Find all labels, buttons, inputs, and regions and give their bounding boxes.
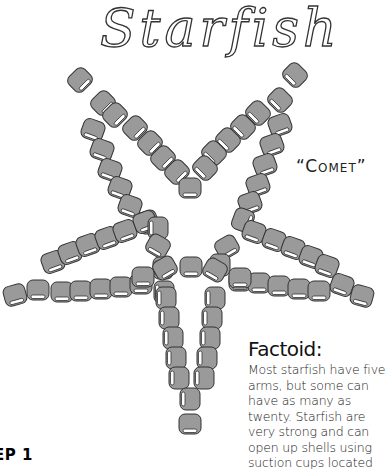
- bead: [205, 287, 225, 309]
- bead: [90, 279, 112, 299]
- bead: [180, 388, 200, 410]
- step-label: EP 1: [0, 446, 33, 464]
- factoid-heading: Factoid:: [248, 338, 388, 360]
- bead: [65, 65, 95, 95]
- factoid-box: Factoid: Most starfish have five arms, b…: [248, 338, 388, 471]
- bead: [2, 282, 28, 307]
- bead: [70, 281, 92, 301]
- bead: [132, 267, 154, 287]
- bead: [200, 327, 220, 349]
- pattern-name: “Comet”: [296, 156, 367, 176]
- arm-right: [210, 219, 375, 309]
- factoid-text: Most starfish have five arms, but some c…: [248, 362, 388, 471]
- bead: [156, 287, 176, 309]
- bead: [194, 367, 214, 389]
- arm-upper-right: [190, 60, 310, 234]
- bead: [229, 268, 251, 288]
- arm-bottom: [132, 254, 251, 434]
- bead: [197, 347, 217, 369]
- bead: [159, 307, 179, 329]
- bead: [179, 414, 201, 434]
- bead: [202, 307, 222, 329]
- bead: [288, 279, 310, 299]
- bead: [268, 276, 290, 296]
- bead: [308, 281, 330, 301]
- bead: [169, 367, 189, 389]
- bead: [110, 277, 132, 297]
- arm-upper-left: [65, 65, 201, 236]
- arm-left: [2, 209, 174, 308]
- bead: [179, 178, 201, 198]
- bead: [166, 347, 186, 369]
- bead: [280, 60, 310, 90]
- bead: [180, 257, 202, 277]
- bead: [27, 280, 49, 300]
- bead: [163, 327, 183, 349]
